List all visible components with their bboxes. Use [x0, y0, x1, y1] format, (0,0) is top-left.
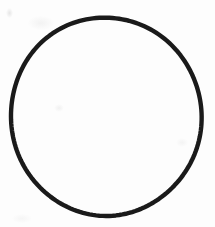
circle-outline-figure [0, 0, 215, 227]
circle-stroke [11, 18, 202, 216]
image-canvas [0, 0, 215, 227]
